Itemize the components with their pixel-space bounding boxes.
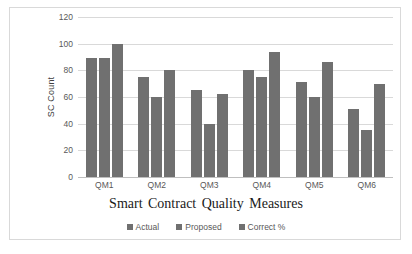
x-tick-label-qm2: QM2 [131, 180, 184, 190]
bar-group-qm4 [236, 17, 289, 177]
x-tick-label-qm5: QM5 [288, 180, 341, 190]
bar [138, 77, 149, 177]
y-tick-label: 40 [64, 119, 73, 128]
bar [296, 82, 307, 177]
y-tick-label: 120 [59, 13, 73, 22]
bar [112, 44, 123, 177]
legend-swatch-icon [239, 224, 245, 230]
bar [217, 94, 228, 177]
plot-area: 020406080100120 [78, 17, 393, 177]
x-tick-label-qm6: QM6 [341, 180, 394, 190]
bar-group-qm5 [288, 17, 341, 177]
y-tick-label: 80 [64, 66, 73, 75]
bar [374, 84, 385, 177]
x-tick-label-qm3: QM3 [183, 180, 236, 190]
bar [309, 97, 320, 177]
chart-legend: ActualProposedCorrect % [10, 222, 402, 232]
bar [204, 124, 215, 177]
legend-label: Proposed [185, 222, 221, 232]
bar [99, 58, 110, 177]
bar-group-qm6 [341, 17, 394, 177]
bar [322, 62, 333, 177]
legend-swatch-icon [127, 224, 133, 230]
bar-group-qm1 [78, 17, 131, 177]
y-tick-label: 0 [68, 173, 73, 182]
chart-frame: SC Count 020406080100120 QM1QM2QM3QM4QM5… [9, 7, 401, 240]
y-tick-label: 20 [64, 146, 73, 155]
bar [256, 77, 267, 177]
bar [348, 109, 359, 177]
legend-label: Actual [136, 222, 160, 232]
legend-item-correct[interactable]: Correct % [239, 222, 286, 232]
legend-item-proposed[interactable]: Proposed [176, 222, 221, 232]
bar-group-qm2 [131, 17, 184, 177]
bar [269, 52, 280, 177]
legend-label: Correct % [248, 222, 286, 232]
bar [164, 70, 175, 177]
x-axis-title: Smart Contract Quality Measures [10, 196, 402, 212]
bar-group-qm3 [183, 17, 236, 177]
x-axis-tick-labels: QM1QM2QM3QM4QM5QM6 [78, 180, 393, 190]
y-axis-title: SC Count [44, 17, 58, 177]
y-tick-label: 100 [59, 39, 73, 48]
bar [191, 90, 202, 177]
legend-item-actual[interactable]: Actual [127, 222, 160, 232]
gridline-0: 0 [78, 177, 393, 178]
bars-layer [78, 17, 393, 177]
bar [243, 70, 254, 177]
x-tick-label-qm1: QM1 [78, 180, 131, 190]
y-tick-label: 60 [64, 93, 73, 102]
legend-swatch-icon [176, 224, 182, 230]
y-axis-title-label: SC Count [46, 77, 56, 118]
bar [361, 130, 372, 177]
bar [86, 58, 97, 177]
bar [151, 97, 162, 177]
x-tick-label-qm4: QM4 [236, 180, 289, 190]
